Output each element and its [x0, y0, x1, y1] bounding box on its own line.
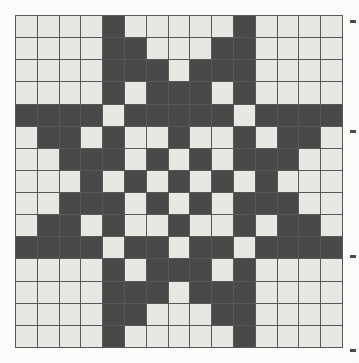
grid-cell-r12-c10[interactable]	[233, 281, 255, 303]
grid-cell-r7-c5[interactable]	[124, 170, 146, 192]
grid-cell-r1-c12[interactable]	[277, 38, 299, 60]
grid-cell-r4-c3[interactable]	[81, 104, 103, 126]
grid-cell-r8-c9[interactable]	[212, 193, 234, 215]
grid-cell-r10-c3[interactable]	[81, 237, 103, 259]
grid-cell-r11-c1[interactable]	[37, 259, 59, 281]
grid-cell-r6-c12[interactable]	[277, 148, 299, 170]
grid-cell-r9-c11[interactable]	[255, 215, 277, 237]
grid-cell-r4-c0[interactable]	[16, 104, 38, 126]
grid-cell-r14-c2[interactable]	[59, 325, 81, 347]
grid-cell-r11-c6[interactable]	[146, 259, 168, 281]
grid-cell-r8-c12[interactable]	[277, 193, 299, 215]
grid-cell-r1-c4[interactable]	[103, 38, 125, 60]
grid-cell-r0-c12[interactable]	[277, 16, 299, 38]
grid-cell-r5-c5[interactable]	[124, 126, 146, 148]
grid-cell-r13-c14[interactable]	[321, 303, 343, 325]
grid-cell-r11-c12[interactable]	[277, 259, 299, 281]
grid-cell-r7-c3[interactable]	[81, 170, 103, 192]
grid-cell-r12-c11[interactable]	[255, 281, 277, 303]
grid-cell-r12-c4[interactable]	[103, 281, 125, 303]
grid-cell-r0-c8[interactable]	[190, 16, 212, 38]
grid-cell-r8-c10[interactable]	[233, 193, 255, 215]
grid-cell-r2-c7[interactable]	[168, 60, 190, 82]
grid-cell-r6-c7[interactable]	[168, 148, 190, 170]
grid-cell-r5-c14[interactable]	[321, 126, 343, 148]
grid-cell-r11-c5[interactable]	[124, 259, 146, 281]
grid-cell-r4-c8[interactable]	[190, 104, 212, 126]
grid-cell-r0-c7[interactable]	[168, 16, 190, 38]
grid-cell-r11-c3[interactable]	[81, 259, 103, 281]
grid-cell-r2-c6[interactable]	[146, 60, 168, 82]
grid-cell-r4-c6[interactable]	[146, 104, 168, 126]
grid-cell-r13-c9[interactable]	[212, 303, 234, 325]
grid-cell-r9-c5[interactable]	[124, 215, 146, 237]
grid-cell-r12-c0[interactable]	[16, 281, 38, 303]
grid-cell-r2-c12[interactable]	[277, 60, 299, 82]
grid-cell-r14-c12[interactable]	[277, 325, 299, 347]
grid-cell-r1-c7[interactable]	[168, 38, 190, 60]
grid-cell-r1-c11[interactable]	[255, 38, 277, 60]
grid-cell-r5-c11[interactable]	[255, 126, 277, 148]
grid-cell-r4-c1[interactable]	[37, 104, 59, 126]
grid-cell-r1-c8[interactable]	[190, 38, 212, 60]
grid-cell-r12-c3[interactable]	[81, 281, 103, 303]
grid-cell-r3-c4[interactable]	[103, 82, 125, 104]
grid-cell-r6-c5[interactable]	[124, 148, 146, 170]
grid-cell-r8-c5[interactable]	[124, 193, 146, 215]
grid-cell-r5-c6[interactable]	[146, 126, 168, 148]
grid-cell-r6-c0[interactable]	[16, 148, 38, 170]
grid-cell-r14-c13[interactable]	[299, 325, 321, 347]
grid-cell-r4-c10[interactable]	[233, 104, 255, 126]
grid-cell-r10-c7[interactable]	[168, 237, 190, 259]
grid-cell-r13-c3[interactable]	[81, 303, 103, 325]
grid-cell-r6-c8[interactable]	[190, 148, 212, 170]
grid-cell-r10-c10[interactable]	[233, 237, 255, 259]
grid-cell-r8-c14[interactable]	[321, 193, 343, 215]
grid-cell-r14-c7[interactable]	[168, 325, 190, 347]
grid-cell-r12-c9[interactable]	[212, 281, 234, 303]
grid-cell-r8-c13[interactable]	[299, 193, 321, 215]
grid-cell-r11-c2[interactable]	[59, 259, 81, 281]
grid-cell-r9-c3[interactable]	[81, 215, 103, 237]
grid-cell-r9-c0[interactable]	[16, 215, 38, 237]
grid-cell-r9-c8[interactable]	[190, 215, 212, 237]
grid-cell-r0-c6[interactable]	[146, 16, 168, 38]
grid-cell-r0-c14[interactable]	[321, 16, 343, 38]
grid-cell-r7-c0[interactable]	[16, 170, 38, 192]
grid-cell-r0-c13[interactable]	[299, 16, 321, 38]
grid-cell-r13-c13[interactable]	[299, 303, 321, 325]
grid-cell-r14-c6[interactable]	[146, 325, 168, 347]
grid-cell-r7-c12[interactable]	[277, 170, 299, 192]
grid-cell-r3-c9[interactable]	[212, 82, 234, 104]
grid-cell-r13-c12[interactable]	[277, 303, 299, 325]
grid-cell-r6-c14[interactable]	[321, 148, 343, 170]
grid-cell-r8-c8[interactable]	[190, 193, 212, 215]
grid-cell-r9-c1[interactable]	[37, 215, 59, 237]
grid-cell-r12-c1[interactable]	[37, 281, 59, 303]
grid-cell-r7-c2[interactable]	[59, 170, 81, 192]
grid-cell-r7-c6[interactable]	[146, 170, 168, 192]
grid-cell-r10-c11[interactable]	[255, 237, 277, 259]
grid-cell-r1-c1[interactable]	[37, 38, 59, 60]
grid-cell-r2-c3[interactable]	[81, 60, 103, 82]
grid-cell-r3-c1[interactable]	[37, 82, 59, 104]
grid-cell-r6-c6[interactable]	[146, 148, 168, 170]
grid-cell-r14-c5[interactable]	[124, 325, 146, 347]
grid-cell-r0-c0[interactable]	[16, 16, 38, 38]
grid-cell-r12-c5[interactable]	[124, 281, 146, 303]
grid-cell-r6-c9[interactable]	[212, 148, 234, 170]
grid-cell-r10-c1[interactable]	[37, 237, 59, 259]
grid-cell-r5-c9[interactable]	[212, 126, 234, 148]
grid-cell-r11-c9[interactable]	[212, 259, 234, 281]
grid-cell-r7-c11[interactable]	[255, 170, 277, 192]
grid-cell-r11-c13[interactable]	[299, 259, 321, 281]
grid-cell-r5-c3[interactable]	[81, 126, 103, 148]
grid-cell-r4-c7[interactable]	[168, 104, 190, 126]
grid-cell-r6-c2[interactable]	[59, 148, 81, 170]
grid-cell-r5-c7[interactable]	[168, 126, 190, 148]
grid-cell-r0-c9[interactable]	[212, 16, 234, 38]
grid-cell-r7-c8[interactable]	[190, 170, 212, 192]
grid-cell-r10-c6[interactable]	[146, 237, 168, 259]
grid-cell-r9-c10[interactable]	[233, 215, 255, 237]
grid-cell-r2-c2[interactable]	[59, 60, 81, 82]
